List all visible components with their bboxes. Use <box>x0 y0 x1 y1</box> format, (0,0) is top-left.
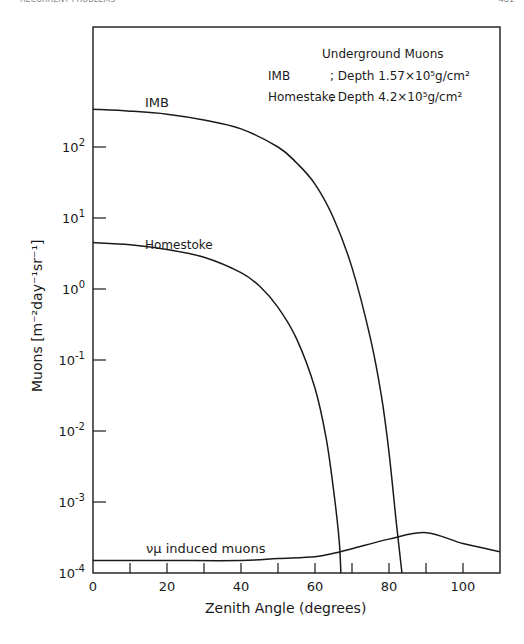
data-curves <box>93 109 500 573</box>
x-tick-label: 40 <box>233 579 250 594</box>
x-tick-label: 60 <box>307 579 324 594</box>
x-tick-label: 100 <box>451 579 476 594</box>
legend-homestake-label: Homestake <box>268 90 336 104</box>
x-tick-label: 0 <box>89 579 97 594</box>
y-tick-label: 102 <box>62 137 85 155</box>
y-tick-label: 10-2 <box>58 421 85 439</box>
homestake-curve <box>93 243 341 573</box>
annotation-homestake: Homestoke <box>145 238 213 252</box>
axis-ticks: 02040608010010210110010-110-210-310-4 <box>58 137 475 594</box>
annotation-imb: IMB <box>145 95 169 110</box>
y-tick-label: 100 <box>62 279 85 297</box>
y-tick-label: 10-3 <box>58 492 85 510</box>
x-axis-label: Zenith Angle (degrees) <box>205 600 366 616</box>
imb-curve <box>93 109 402 573</box>
chart-title: Underground Muons <box>322 47 444 61</box>
legend-homestake-desc: ; Depth 4.2×10⁵g/cm² <box>330 90 462 104</box>
annotation-numu: νμ induced muons <box>146 541 266 556</box>
muon-flux-chart: 02040608010010210110010-110-210-310-4 Un… <box>0 0 524 644</box>
y-axis-label: Muons [m⁻²day⁻¹sr⁻¹] <box>29 239 45 392</box>
x-tick-label: 20 <box>159 579 176 594</box>
legend-imb-desc: ; Depth 1.57×10⁵g/cm² <box>330 69 470 83</box>
x-tick-label: 80 <box>381 579 398 594</box>
y-tick-label: 10-4 <box>58 563 85 581</box>
legend-imb-label: IMB <box>268 69 290 83</box>
y-tick-label: 10-1 <box>58 350 85 368</box>
y-tick-label: 101 <box>62 208 85 226</box>
